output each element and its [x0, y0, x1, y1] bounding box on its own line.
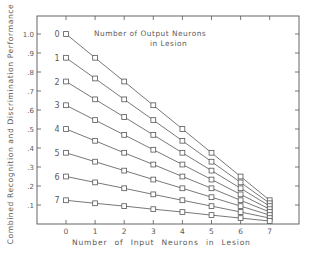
- series-label: 7: [54, 196, 59, 205]
- x-axis-label: Number of Input Neurons in Lesion: [72, 238, 251, 247]
- square-marker-icon: [64, 198, 69, 203]
- square-marker-icon: [122, 115, 127, 120]
- y-axis-label: Combined Recognition and Discrimination …: [3, 20, 17, 228]
- square-marker-icon: [238, 186, 243, 191]
- legend-title-line-2: in Lesion: [94, 39, 206, 49]
- square-marker-icon: [122, 97, 127, 102]
- square-marker-icon: [180, 162, 185, 167]
- square-marker-icon: [151, 162, 156, 167]
- x-tick-label: 0: [64, 227, 69, 236]
- square-marker-icon: [180, 186, 185, 191]
- square-marker-icon: [209, 168, 214, 173]
- x-tick-label: 4: [180, 227, 185, 236]
- series-label: 3: [54, 101, 59, 110]
- square-marker-icon: [238, 198, 243, 203]
- square-marker-icon: [238, 210, 243, 215]
- square-marker-icon: [151, 147, 156, 152]
- square-marker-icon: [122, 132, 127, 137]
- square-marker-icon: [151, 192, 156, 197]
- square-marker-icon: [151, 177, 156, 182]
- square-marker-icon: [93, 138, 98, 143]
- y-tick-label: .7: [27, 88, 34, 96]
- series-label: 4: [54, 125, 59, 134]
- y-tick-label: .6: [27, 107, 34, 115]
- series-label: 2: [54, 78, 59, 87]
- y-tick-label: .3: [27, 164, 34, 172]
- square-marker-icon: [64, 174, 69, 179]
- series-3: 3: [54, 101, 272, 211]
- y-tick-label: .9: [27, 50, 34, 58]
- square-marker-icon: [209, 195, 214, 200]
- legend-title: Number of Output Neurons in Lesion: [94, 29, 206, 49]
- x-tick-label: 1: [93, 227, 98, 236]
- square-marker-icon: [64, 150, 69, 155]
- square-marker-icon: [151, 132, 156, 137]
- square-marker-icon: [238, 216, 243, 221]
- square-marker-icon: [122, 79, 127, 84]
- y-tick-label: .8: [27, 69, 34, 77]
- square-marker-icon: [180, 198, 185, 203]
- square-marker-icon: [64, 32, 69, 37]
- x-tick-label: 2: [122, 227, 127, 236]
- y-tick-label: 1.0: [23, 31, 34, 39]
- square-marker-icon: [180, 174, 185, 179]
- square-marker-icon: [238, 174, 243, 179]
- square-marker-icon: [122, 168, 127, 173]
- series-label: 6: [54, 173, 59, 182]
- series-4: 4: [54, 125, 272, 214]
- square-marker-icon: [209, 159, 214, 164]
- square-marker-icon: [267, 219, 272, 224]
- square-marker-icon: [122, 186, 127, 191]
- axis-tick-labels: 01234567.1.2.3.4.5.6.7.8.91.0: [23, 31, 272, 237]
- square-marker-icon: [238, 180, 243, 185]
- square-marker-icon: [93, 159, 98, 164]
- square-marker-icon: [122, 204, 127, 209]
- square-marker-icon: [64, 127, 69, 132]
- y-tick-label: .5: [27, 126, 34, 134]
- series-label: 1: [54, 54, 59, 63]
- square-marker-icon: [93, 180, 98, 185]
- square-marker-icon: [209, 150, 214, 155]
- y-tick-label: .2: [27, 183, 34, 191]
- square-marker-icon: [151, 118, 156, 123]
- data-series: 01234567: [54, 30, 272, 223]
- series-label: 0: [54, 30, 59, 39]
- square-marker-icon: [238, 204, 243, 209]
- square-marker-icon: [209, 186, 214, 191]
- series-2: 2: [54, 78, 272, 209]
- square-marker-icon: [180, 127, 185, 132]
- x-tick-label: 3: [151, 227, 156, 236]
- series-label: 5: [54, 149, 59, 158]
- square-marker-icon: [151, 207, 156, 212]
- square-marker-icon: [151, 103, 156, 108]
- square-marker-icon: [64, 79, 69, 84]
- square-marker-icon: [238, 192, 243, 197]
- square-marker-icon: [180, 210, 185, 215]
- x-tick-label: 7: [267, 227, 272, 236]
- square-marker-icon: [93, 118, 98, 123]
- square-marker-icon: [93, 55, 98, 60]
- y-tick-label: .1: [27, 202, 34, 210]
- legend-title-line-1: Number of Output Neurons: [94, 29, 206, 38]
- square-marker-icon: [64, 55, 69, 60]
- x-tick-label: 5: [209, 227, 214, 236]
- square-marker-icon: [180, 138, 185, 143]
- y-tick-label: .4: [27, 145, 34, 153]
- square-marker-icon: [209, 177, 214, 182]
- square-marker-icon: [93, 97, 98, 102]
- square-marker-icon: [209, 213, 214, 218]
- square-marker-icon: [64, 103, 69, 108]
- square-marker-icon: [93, 201, 98, 206]
- square-marker-icon: [122, 150, 127, 155]
- x-tick-label: 6: [238, 227, 243, 236]
- square-marker-icon: [180, 150, 185, 155]
- square-marker-icon: [93, 76, 98, 81]
- square-marker-icon: [209, 204, 214, 209]
